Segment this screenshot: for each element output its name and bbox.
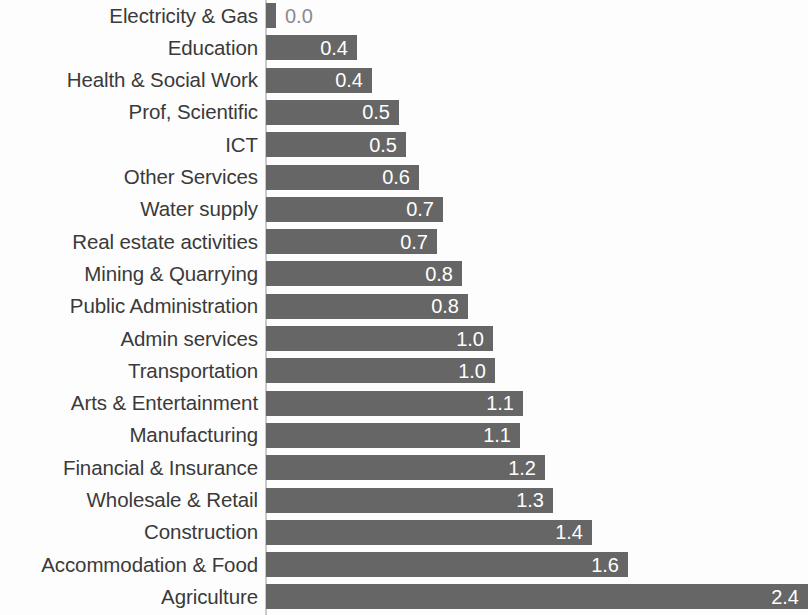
bar-value-label: 0.5 — [369, 135, 397, 155]
bar-value-label: 2.4 — [771, 587, 799, 607]
category-label: Wholesale & Retail — [87, 490, 258, 511]
bar-track: 1.1 — [266, 423, 808, 448]
category-label: Prof, Scientific — [129, 102, 258, 123]
bar-value-label: 0.0 — [285, 6, 313, 26]
bar-value-label: 0.7 — [406, 199, 434, 219]
bar — [266, 3, 276, 28]
bar-track: 1.0 — [266, 326, 808, 351]
bar: 1.4 — [266, 520, 592, 545]
bar: 1.6 — [266, 552, 628, 577]
bar-track: 1.1 — [266, 391, 808, 416]
category-label: Transportation — [128, 361, 258, 382]
bar-track: 0.4 — [266, 68, 808, 93]
bar: 0.7 — [266, 229, 437, 254]
bar-track: 1.6 — [266, 552, 808, 577]
category-label: Agriculture — [161, 587, 258, 608]
bar-value-label: 0.4 — [335, 70, 363, 90]
horizontal-bar-chart: Electricity & Gas0.0Education0.4Health &… — [0, 0, 808, 615]
bar-value-label: 1.2 — [508, 458, 536, 478]
category-label: Other Services — [124, 167, 258, 188]
bar-row: Electricity & Gas0.0 — [0, 3, 808, 28]
bar-row: Accommodation & Food1.6 — [0, 552, 808, 577]
bar-row: Construction1.4 — [0, 520, 808, 545]
bar-track: 0.5 — [266, 132, 808, 157]
category-label: Admin services — [120, 328, 258, 349]
bar-row: Prof, Scientific0.5 — [0, 100, 808, 125]
bar-value-label: 1.3 — [516, 490, 544, 510]
category-label: Mining & Quarrying — [84, 264, 258, 285]
bar-value-label: 0.6 — [382, 167, 410, 187]
category-label: Construction — [144, 522, 258, 543]
bar: 0.6 — [266, 165, 419, 190]
bar-row: Admin services1.0 — [0, 326, 808, 351]
bar-value-label: 0.7 — [400, 232, 428, 252]
bar-track: 0.8 — [266, 261, 808, 286]
bar: 1.1 — [266, 423, 520, 448]
bar: 1.3 — [266, 488, 553, 513]
bar-value-label: 1.0 — [458, 361, 486, 381]
bar-row: ICT0.5 — [0, 132, 808, 157]
bar-row: Real estate activities0.7 — [0, 229, 808, 254]
bar-rows-container: Electricity & Gas0.0Education0.4Health &… — [0, 0, 808, 615]
bar-row: Health & Social Work0.4 — [0, 68, 808, 93]
bar-track: 0.4 — [266, 35, 808, 60]
bar-track: 0.6 — [266, 165, 808, 190]
bar-row: Water supply0.7 — [0, 197, 808, 222]
bar-value-label: 1.4 — [555, 522, 583, 542]
bar-value-label: 0.8 — [425, 264, 453, 284]
bar-value-label: 1.1 — [483, 425, 511, 445]
bar-value-label: 1.1 — [486, 393, 514, 413]
bar-row: Manufacturing1.1 — [0, 423, 808, 448]
category-label: Public Administration — [70, 296, 258, 317]
bar-value-label: 0.8 — [431, 296, 459, 316]
bar: 1.2 — [266, 455, 545, 480]
bar: 0.5 — [266, 132, 406, 157]
bar-row: Agriculture2.4 — [0, 584, 808, 609]
category-label: ICT — [225, 134, 258, 155]
bar-row: Public Administration0.8 — [0, 294, 808, 319]
bar-row: Transportation1.0 — [0, 358, 808, 383]
bar-track: 0.5 — [266, 100, 808, 125]
category-label: Water supply — [140, 199, 258, 220]
bar-row: Education0.4 — [0, 35, 808, 60]
bar: 0.4 — [266, 68, 372, 93]
bar-row: Mining & Quarrying0.8 — [0, 261, 808, 286]
bar-row: Other Services0.6 — [0, 165, 808, 190]
category-label: Health & Social Work — [67, 70, 258, 91]
category-label: Accommodation & Food — [41, 554, 258, 575]
category-label: Financial & Insurance — [63, 457, 258, 478]
bar: 1.1 — [266, 391, 523, 416]
category-label: Electricity & Gas — [109, 5, 258, 26]
bar: 1.0 — [266, 326, 493, 351]
bar: 1.0 — [266, 358, 495, 383]
bar: 0.8 — [266, 261, 462, 286]
bar-value-label: 0.4 — [320, 38, 348, 58]
bar-track: 0.0 — [266, 3, 808, 28]
bar-row: Wholesale & Retail1.3 — [0, 488, 808, 513]
bar-track: 2.4 — [266, 584, 808, 609]
bar-row: Financial & Insurance1.2 — [0, 455, 808, 480]
bar-track: 0.7 — [266, 229, 808, 254]
bar-track: 0.8 — [266, 294, 808, 319]
bar: 2.4 — [266, 584, 808, 609]
category-label: Education — [168, 38, 258, 59]
bar: 0.8 — [266, 294, 468, 319]
bar-track: 1.0 — [266, 358, 808, 383]
bar-track: 0.7 — [266, 197, 808, 222]
bar-track: 1.2 — [266, 455, 808, 480]
bar-value-label: 1.0 — [456, 329, 484, 349]
bar: 0.4 — [266, 35, 357, 60]
bar-row: Arts & Entertainment1.1 — [0, 391, 808, 416]
category-label: Arts & Entertainment — [71, 393, 258, 414]
bar-track: 1.3 — [266, 488, 808, 513]
category-label: Manufacturing — [129, 425, 258, 446]
category-label: Real estate activities — [72, 231, 258, 252]
bar-value-label: 1.6 — [591, 555, 619, 575]
bar: 0.7 — [266, 197, 443, 222]
bar: 0.5 — [266, 100, 399, 125]
bar-track: 1.4 — [266, 520, 808, 545]
bar-value-label: 0.5 — [362, 102, 390, 122]
